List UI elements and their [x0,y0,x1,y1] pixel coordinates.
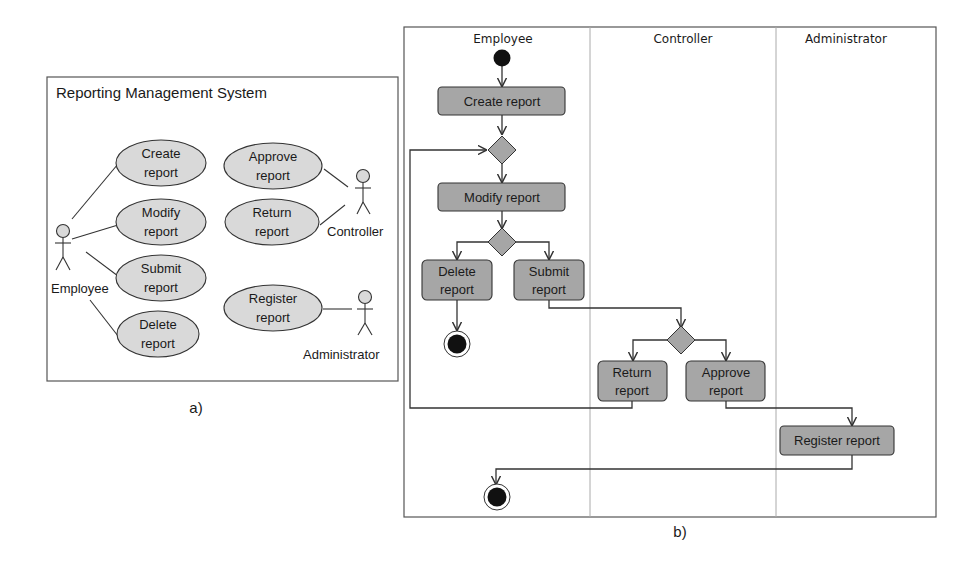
svg-text:Create report: Create report [464,94,541,109]
use-case-delete-report[interactable]: Delete report [117,311,199,357]
svg-text:report: report [144,224,178,239]
final-node-2 [484,484,510,510]
svg-text:report: report [532,282,566,297]
svg-text:Approve: Approve [249,149,297,164]
system-title: Reporting Management System [56,84,267,101]
activity-approve-report[interactable]: Approve report [686,361,765,401]
activity-register-report[interactable]: Register report [780,426,894,455]
svg-text:Approve: Approve [702,365,750,380]
activity-modify-report[interactable]: Modify report [438,183,565,211]
svg-text:report: report [255,224,289,239]
svg-text:report: report [141,336,175,351]
svg-text:report: report [256,310,290,325]
svg-text:Register report: Register report [794,433,880,448]
use-case-register-report[interactable]: Register report [224,285,322,331]
svg-text:report: report [144,165,178,180]
use-case-diagram: Reporting Management System Create repor… [47,77,398,381]
use-case-return-report[interactable]: Return report [225,199,319,245]
activity-create-report[interactable]: Create report [438,87,565,115]
caption-b: b) [673,523,686,540]
activity-delete-report[interactable]: Delete report [422,260,492,300]
svg-text:Submit: Submit [529,264,570,279]
lane-employee: Employee [473,32,532,46]
use-case-submit-report[interactable]: Submit report [116,255,206,301]
use-case-approve-report[interactable]: Approve report [224,143,322,189]
svg-text:Register: Register [249,291,298,306]
svg-text:Create: Create [141,146,180,161]
svg-text:Return: Return [612,365,651,380]
svg-text:Delete: Delete [139,317,177,332]
svg-text:report: report [144,280,178,295]
lane-administrator: Administrator [805,32,887,46]
svg-text:Employee: Employee [51,281,109,296]
svg-text:Controller: Controller [327,224,384,239]
activity-diagram: Employee Controller Administrator Create… [404,27,936,517]
svg-text:Administrator: Administrator [303,347,380,362]
activity-return-report[interactable]: Return report [598,361,667,401]
final-node-1 [444,331,470,357]
svg-text:Delete: Delete [438,264,476,279]
svg-text:report: report [440,282,474,297]
initial-node [494,50,511,67]
use-case-create-report[interactable]: Create report [116,140,206,186]
svg-text:Return: Return [252,205,291,220]
use-case-modify-report[interactable]: Modify report [116,199,206,245]
svg-text:Modify: Modify [142,205,181,220]
svg-text:report: report [615,383,649,398]
svg-text:Submit: Submit [141,261,182,276]
lane-controller: Controller [653,32,712,46]
svg-text:report: report [256,168,290,183]
diagram-canvas: Reporting Management System Create repor… [0,0,963,565]
activity-submit-report[interactable]: Submit report [514,260,584,300]
svg-text:Modify report: Modify report [464,190,540,205]
caption-a: a) [189,399,202,416]
svg-text:report: report [709,383,743,398]
